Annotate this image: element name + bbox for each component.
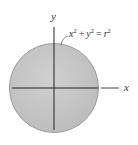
circle-equation: x2+y2=r2 [68, 27, 111, 39]
y-axis-label: y [50, 10, 56, 22]
x-axis-label: x [123, 81, 129, 93]
equation-leader-line [61, 36, 68, 45]
circle-diagram: y x x2+y2=r2 [0, 0, 138, 145]
